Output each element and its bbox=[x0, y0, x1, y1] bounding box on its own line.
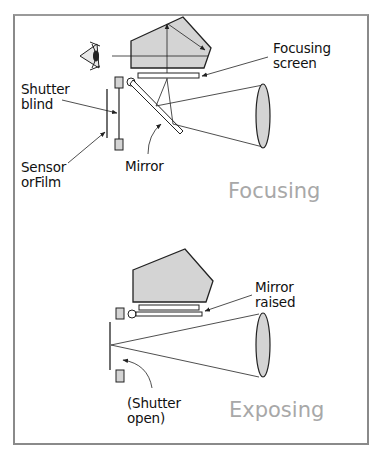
eye-icon bbox=[80, 42, 100, 70]
mode-label-exposing: Exposing bbox=[229, 398, 324, 422]
mode-label-focusing: Focusing bbox=[228, 179, 320, 203]
label-sensor-or-film: Sensor orFilm bbox=[21, 160, 66, 190]
label-mirror: Mirror bbox=[125, 159, 164, 174]
shutter-block-top-exposing bbox=[116, 308, 124, 319]
mirror-hinge-exposing bbox=[128, 310, 136, 318]
focusing-panel bbox=[62, 17, 270, 163]
focusing-screen bbox=[138, 73, 199, 78]
label-shutter-open: (Shutter open) bbox=[127, 396, 181, 426]
lens-exposing bbox=[256, 313, 270, 377]
label-shutter-blind: Shutter blind bbox=[21, 82, 70, 112]
shutter-block-top bbox=[115, 77, 123, 88]
shutter-block-bottom bbox=[115, 139, 123, 150]
label-focusing-screen: Focusing screen bbox=[273, 41, 331, 71]
pentaprism-exposing bbox=[133, 249, 213, 302]
mirror bbox=[130, 80, 183, 134]
exposing-panel bbox=[110, 249, 270, 388]
focusing-screen-exposing bbox=[139, 305, 199, 310]
mirror-raised bbox=[136, 312, 202, 316]
shutter-block-bottom-exposing bbox=[116, 370, 124, 382]
lens bbox=[256, 84, 270, 148]
label-mirror-raised: Mirror raised bbox=[255, 280, 295, 310]
pentaprism bbox=[131, 17, 211, 68]
